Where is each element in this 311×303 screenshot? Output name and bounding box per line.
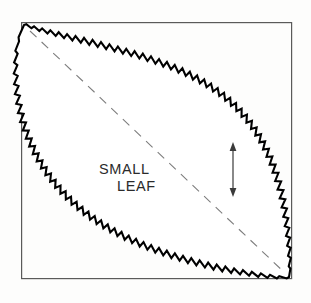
leaf-label-line-2: LEAF (117, 178, 156, 194)
leaf-diagram-svg: SMALL LEAF (0, 0, 311, 303)
leaf-figure-container: SMALL LEAF (0, 0, 311, 303)
leaf-label-line-1: SMALL (99, 161, 150, 177)
